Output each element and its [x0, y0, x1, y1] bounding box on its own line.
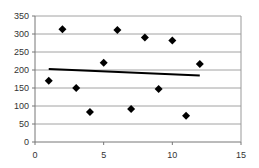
x-tick-label: 0	[32, 150, 37, 160]
y-tick-label: 350	[14, 11, 29, 21]
diamond-marker	[168, 36, 176, 44]
y-tick-label: 200	[14, 65, 29, 75]
diamond-marker	[100, 59, 108, 67]
x-tick-label: 5	[101, 150, 106, 160]
y-axis-ticks: 050100150200250300350	[14, 11, 35, 147]
y-tick-label: 100	[14, 101, 29, 111]
diamond-marker	[113, 26, 121, 34]
y-tick-label: 300	[14, 29, 29, 39]
x-tick-label: 10	[167, 150, 177, 160]
diamond-marker	[45, 77, 53, 85]
diamond-marker	[182, 112, 190, 120]
diamond-marker	[72, 84, 80, 92]
plot-area-border	[35, 16, 241, 142]
diamond-marker	[58, 25, 66, 33]
x-axis-ticks: 051015	[32, 142, 246, 160]
y-tick-label: 250	[14, 47, 29, 57]
y-tick-label: 0	[24, 137, 29, 147]
x-tick-label: 15	[236, 150, 246, 160]
scatter-chart: 050100150200250300350 051015	[0, 0, 259, 168]
y-tick-label: 150	[14, 83, 29, 93]
diamond-marker	[196, 60, 204, 68]
diamond-marker	[141, 34, 149, 42]
y-tick-label: 50	[19, 119, 29, 129]
diamond-marker	[155, 85, 163, 93]
diamond-marker	[86, 108, 94, 116]
